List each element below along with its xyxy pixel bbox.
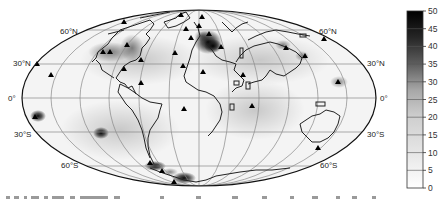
map: [0, 10, 444, 186]
label-eq-right: 0°: [380, 94, 388, 103]
cb-tick-15: 15: [428, 130, 438, 140]
cb-tick-0: 0: [428, 183, 433, 193]
label-60n-left: 60°N: [60, 27, 78, 36]
label-30s-left: 30°S: [14, 130, 31, 139]
colorbar-tick-labels: 50 45 40 35 30 25 20 15 10 5 0: [428, 6, 438, 193]
cb-tick-25: 25: [428, 95, 438, 105]
cb-tick-30: 30: [428, 77, 438, 87]
cb-tick-40: 40: [428, 41, 438, 51]
cb-tick-45: 45: [428, 24, 438, 34]
colorbar: 50 45 40 35 30 25 20 15 10 5 0: [407, 6, 438, 193]
label-30n-right: 30°N: [367, 59, 385, 68]
label-30s-right: 30°S: [367, 130, 384, 139]
cb-tick-35: 35: [428, 59, 438, 69]
label-60s-right: 60°S: [320, 161, 337, 170]
figure: 60°N 30°N 0° 30°S 60°S 60°N 30°N 0° 30°S…: [0, 0, 444, 199]
label-60n-right: 60°N: [319, 27, 337, 36]
label-eq-left: 0°: [8, 94, 16, 103]
label-60s-left: 60°S: [61, 161, 78, 170]
cb-tick-10: 10: [428, 148, 438, 158]
cb-tick-20: 20: [428, 112, 438, 122]
label-30n-left: 30°N: [13, 59, 31, 68]
cb-tick-5: 5: [428, 165, 433, 175]
cut-off-caption: [6, 196, 376, 199]
cb-tick-50: 50: [428, 6, 438, 16]
colorbar-ticks: [423, 11, 426, 188]
